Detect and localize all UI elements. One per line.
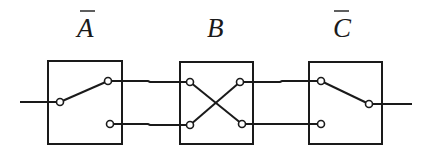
switch-a-input-terminal [57, 99, 64, 106]
switch-b [150, 62, 280, 144]
label-c-group: C [333, 11, 352, 43]
label-b-group: B [207, 13, 224, 43]
switch-label-c: C [333, 13, 352, 43]
switch-c-bottom-terminal [318, 121, 325, 128]
switch-b-out-bottom-terminal [239, 121, 246, 128]
switch-label-b: B [207, 13, 224, 43]
label-a-group: A [75, 11, 95, 43]
switch-label-a: A [75, 13, 94, 43]
switch-c-top-terminal [318, 78, 325, 85]
switch-a-top-terminal [105, 78, 112, 85]
switch-b-in-bottom-terminal [187, 122, 194, 129]
switch-a [20, 61, 140, 144]
switch-b-out-top-terminal [237, 79, 244, 86]
switch-network-diagram: A B C [0, 0, 429, 155]
switch-c [282, 62, 412, 144]
switch-b-in-top-terminal [187, 79, 194, 86]
switch-c-output-terminal [366, 101, 373, 108]
switch-a-bottom-terminal [107, 121, 114, 128]
